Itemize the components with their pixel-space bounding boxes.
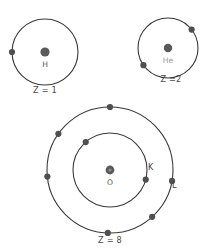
atom-hydrogen: H Z = 1 bbox=[9, 19, 78, 95]
electron bbox=[44, 173, 50, 179]
electron bbox=[140, 62, 146, 68]
electron bbox=[189, 26, 195, 32]
hydrogen-nucleus bbox=[40, 47, 49, 56]
oxygen-nucleus-core bbox=[109, 169, 112, 172]
electron bbox=[149, 214, 155, 220]
helium-symbol-label: He bbox=[163, 56, 174, 65]
hydrogen-electrons bbox=[9, 49, 15, 55]
atom-helium: He Z =2 bbox=[138, 18, 198, 84]
electron bbox=[9, 49, 15, 55]
electron bbox=[55, 131, 61, 137]
electron bbox=[107, 104, 113, 110]
electron bbox=[143, 176, 149, 182]
helium-atomic-number-label: Z =2 bbox=[160, 74, 181, 84]
hydrogen-atomic-number-label: Z = 1 bbox=[33, 85, 57, 95]
atom-oxygen: O K L Z = 8 bbox=[44, 104, 177, 245]
oxygen-symbol-label: O bbox=[107, 178, 113, 187]
oxygen-shell-l-label: L bbox=[172, 181, 177, 190]
oxygen-shell-k-label: K bbox=[148, 163, 154, 172]
diagram-canvas: H Z = 1 He Z =2 O K L Z = 8 bbox=[0, 0, 209, 252]
hydrogen-symbol-label: H bbox=[42, 60, 48, 69]
electron bbox=[83, 139, 89, 145]
oxygen-k-shell-electrons bbox=[83, 139, 149, 183]
helium-nucleus bbox=[164, 44, 172, 52]
oxygen-atomic-number-label: Z = 8 bbox=[98, 235, 122, 245]
atomic-models-figure: H Z = 1 He Z =2 O K L Z = 8 bbox=[0, 0, 209, 252]
